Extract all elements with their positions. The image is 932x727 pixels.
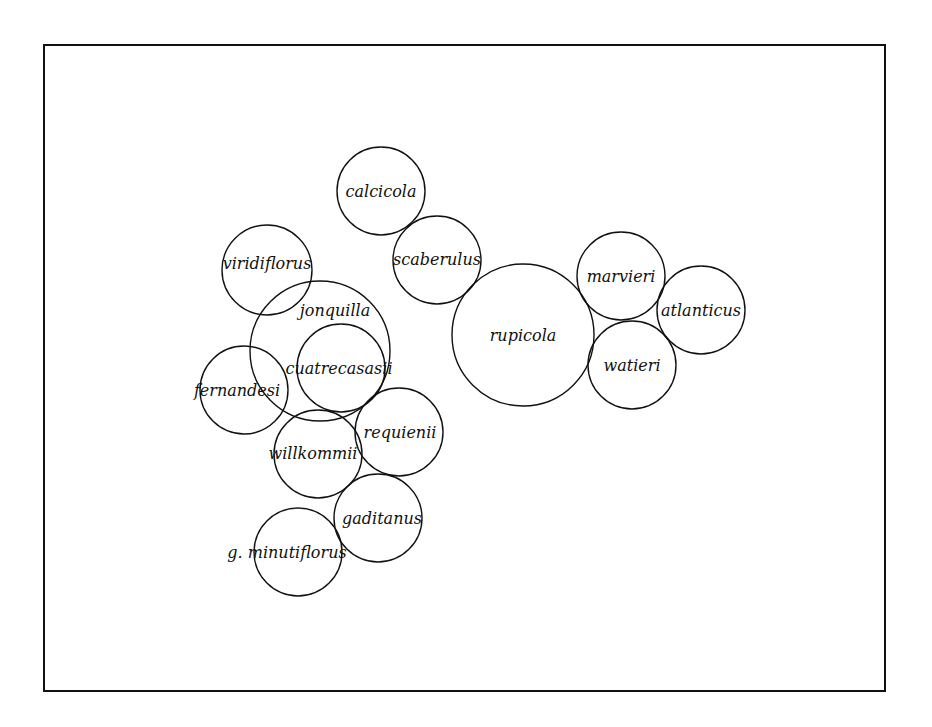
label-jonquilla: jonquilla <box>297 301 370 320</box>
label-g-minutiflorus: g. minutiflorus <box>227 543 346 562</box>
label-atlanticus: atlanticus <box>661 301 741 320</box>
label-willkommii: willkommii <box>269 444 358 463</box>
label-scaberulus: scaberulus <box>393 250 481 269</box>
label-fernandesi: fernandesi <box>193 381 280 400</box>
label-layer: calcicolascaberulusviridiflorusjonquilla… <box>193 182 741 562</box>
label-requienii: requienii <box>364 423 437 442</box>
circle-layer <box>200 147 745 596</box>
label-calcicola: calcicola <box>346 182 417 201</box>
label-gaditanus: gaditanus <box>342 509 422 528</box>
label-viridiflorus: viridiflorus <box>223 254 312 273</box>
species-overlap-diagram: calcicolascaberulusviridiflorusjonquilla… <box>0 0 932 727</box>
label-rupicola: rupicola <box>490 326 557 345</box>
label-cuatrecasasii: cuatrecasasii <box>285 359 392 378</box>
label-watieri: watieri <box>603 356 660 375</box>
label-marvieri: marvieri <box>587 267 656 286</box>
